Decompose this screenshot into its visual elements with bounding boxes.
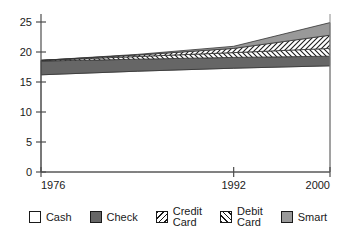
- legend-swatch-solid-white: [29, 211, 41, 223]
- x-tick-label: 2000: [306, 179, 330, 191]
- legend-label: Cash: [46, 212, 72, 223]
- y-tick-label: 20: [20, 46, 32, 58]
- stacked-area-chart: 0510152025 197619922000: [0, 0, 356, 195]
- x-tick-label: 1976: [41, 179, 65, 191]
- legend-swatch-solid-mid-gray: [281, 211, 293, 223]
- x-axis-tick-labels: 197619922000: [41, 179, 330, 191]
- legend-item[interactable]: Debit Card: [220, 206, 263, 228]
- x-tick-label: 1992: [221, 179, 245, 191]
- series-areas: [41, 23, 330, 172]
- legend-item[interactable]: Check: [90, 211, 138, 223]
- legend-swatch-solid-dark-gray: [90, 211, 102, 223]
- y-tick-label: 15: [20, 76, 32, 88]
- legend-label: Smart: [298, 212, 327, 223]
- legend-label: Check: [107, 212, 138, 223]
- legend-item[interactable]: Cash: [29, 211, 72, 223]
- y-axis-tick-labels: 0510152025: [20, 16, 32, 178]
- chart-container: 0510152025 197619922000 CashCheckCredit …: [0, 0, 356, 237]
- legend-swatch-forwardslash-hatch: [220, 211, 232, 223]
- y-tick-label: 25: [20, 16, 32, 28]
- legend-label: Credit Card: [173, 206, 202, 228]
- y-tick-label: 0: [26, 166, 32, 178]
- chart-legend: CashCheckCredit CardDebit CardSmart: [0, 198, 356, 236]
- legend-item[interactable]: Smart: [281, 211, 327, 223]
- legend-swatch-backslash-hatch: [156, 211, 168, 223]
- y-tick-label: 10: [20, 106, 32, 118]
- area-band-cash: [41, 66, 330, 172]
- y-tick-label: 5: [26, 136, 32, 148]
- legend-item[interactable]: Credit Card: [156, 206, 202, 228]
- legend-label: Debit Card: [237, 206, 263, 228]
